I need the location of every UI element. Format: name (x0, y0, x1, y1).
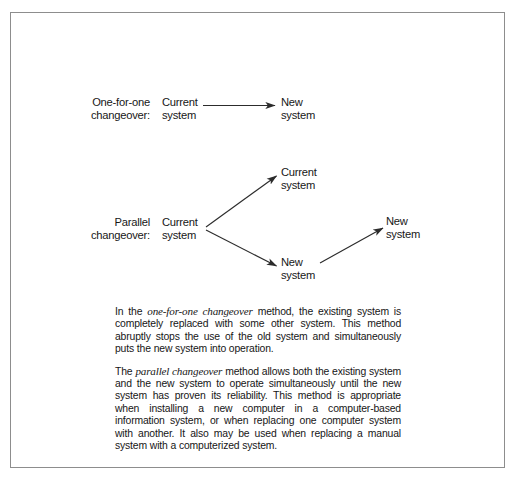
paragraph-parallel-changeover: The parallel changeover method allows bo… (115, 365, 401, 453)
term-parallel-changeover: parallel changeover (135, 365, 222, 377)
paragraph-one-lead: In the (115, 306, 147, 317)
figure-caption-text: In the one-for-one changeover method, th… (115, 305, 401, 452)
row-label-parallel-changeover: Parallel changeover: (40, 216, 150, 242)
node-one-for-one-current-system: Current system (162, 96, 198, 122)
term-one-for-one-changeover: one-for-one changeover (147, 305, 252, 317)
node-parallel-final-new-system: New system (386, 215, 420, 241)
paragraph-one-for-one-changeover: In the one-for-one changeover method, th… (115, 305, 401, 356)
node-parallel-branch-new-system: New system (281, 256, 315, 282)
node-parallel-current-system: Current system (162, 216, 198, 242)
paragraph-two-lead: The (115, 366, 135, 377)
paragraph-two-rest: method allows both the existing system a… (115, 366, 401, 451)
node-one-for-one-new-system: New system (281, 96, 315, 122)
node-parallel-branch-current-system: Current system (281, 166, 317, 192)
row-label-one-for-one-changeover: One-for-one changeover: (40, 96, 150, 122)
